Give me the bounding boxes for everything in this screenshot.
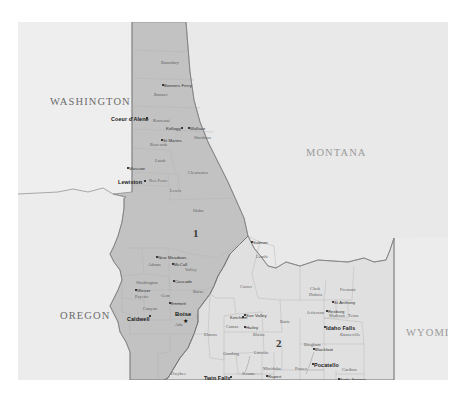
city-dot: [244, 314, 246, 316]
city-dot: [144, 180, 146, 182]
city-dot: [135, 289, 137, 291]
capital-star-icon: ★: [183, 318, 188, 324]
city-dot: [324, 326, 326, 328]
city-dot: [127, 167, 129, 169]
city-dot: [266, 375, 268, 377]
city-dot: [230, 376, 232, 378]
map-figure: WASHINGTONMONTANAOREGONWYOMING BoundaryB…: [0, 0, 466, 412]
city-dot: [242, 316, 244, 318]
city-dot: [181, 127, 183, 129]
map-geometry: [18, 22, 448, 380]
city-dot: [244, 326, 246, 328]
city-dot: [332, 301, 334, 303]
city-dot: [326, 310, 328, 312]
city-dot: [162, 84, 164, 86]
city-dot: [312, 363, 314, 365]
city-dot: [161, 139, 163, 141]
city-dot: [146, 117, 148, 119]
city-dot: [169, 302, 171, 304]
map-canvas[interactable]: WASHINGTONMONTANAOREGONWYOMING BoundaryB…: [18, 22, 448, 380]
city-dot: [173, 280, 175, 282]
city-dot: [156, 256, 158, 258]
state-wyoming-area: [394, 237, 448, 380]
city-dot: [251, 241, 253, 243]
city-dot: [313, 348, 315, 350]
city-dot: [338, 378, 340, 380]
state-washington-area: [18, 22, 132, 194]
city-dot: [149, 315, 151, 317]
state-oregon-area: [18, 188, 126, 380]
city-dot: [188, 127, 190, 129]
city-dot: [172, 263, 174, 265]
